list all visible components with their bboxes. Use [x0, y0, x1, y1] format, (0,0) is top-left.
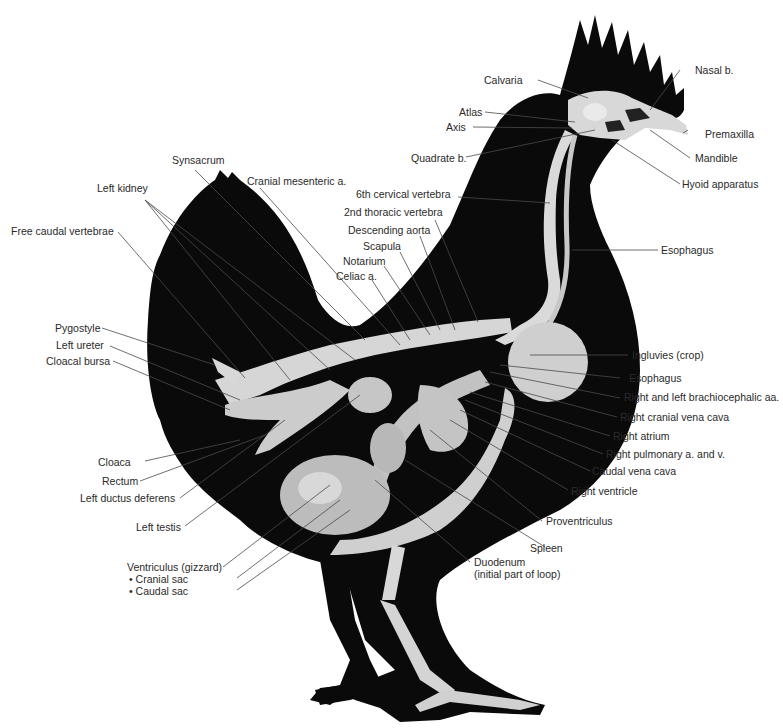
label-ingluvies-crop: Ingluvies (crop): [632, 349, 704, 361]
label-descending-aorta: Descending aorta: [348, 224, 430, 236]
testis: [348, 377, 392, 413]
label-scapula: Scapula: [363, 240, 401, 252]
label-esophagus-thorax: Esophagus: [629, 372, 682, 384]
label-synsacrum: Synsacrum: [172, 154, 225, 166]
label-6th-cervical-vertebra: 6th cervical vertebra: [356, 188, 451, 200]
label-2nd-thoracic-vertebra: 2nd thoracic vertebra: [344, 206, 443, 218]
label-esophagus-neck: Esophagus: [661, 244, 714, 256]
label-right-cranial-vena-cava: Right cranial vena cava: [620, 411, 729, 423]
label-left-testis: Left testis: [136, 521, 181, 533]
label-mandible: Mandible: [695, 152, 738, 164]
label-left-ductus-deferens: Left ductus deferens: [80, 492, 175, 504]
label-left-kidney: Left kidney: [97, 182, 148, 194]
label-left-ureter: Left ureter: [56, 339, 104, 351]
label-nasal-bone: Nasal b.: [695, 64, 734, 76]
label-cranial-mesenteric-artery: Cranial mesenteric a.: [247, 175, 346, 187]
label-caudal-vena-cava: Caudal vena cava: [592, 465, 676, 477]
rooster-illustration: [0, 0, 783, 728]
label-premaxilla: Premaxilla: [705, 128, 754, 140]
label-calvaria: Calvaria: [484, 74, 523, 86]
label-brachiocephalic-arteries: Right and left brachiocephalic aa.: [624, 391, 779, 403]
label-cranial-sac: • Cranial sac: [129, 573, 188, 585]
label-duodenum-line1: Duodenum: [474, 556, 560, 568]
label-free-caudal-vertebrae: Free caudal vertebrae: [11, 225, 114, 237]
crop: [508, 322, 588, 402]
label-axis: Axis: [446, 121, 466, 133]
label-celiac-artery: Celiac a.: [336, 270, 377, 282]
label-right-ventricle: Right ventricle: [571, 485, 638, 497]
label-hyoid-apparatus: Hyoid apparatus: [682, 178, 758, 190]
spleen: [370, 423, 406, 473]
label-right-atrium: Right atrium: [613, 430, 670, 442]
label-cloaca: Cloaca: [98, 456, 131, 468]
orbit: [583, 103, 607, 121]
label-rectum: Rectum: [102, 475, 138, 487]
label-notarium: Notarium: [343, 255, 386, 267]
label-right-pulmonary: Right pulmonary a. and v.: [606, 448, 725, 460]
label-ventriculus-gizzard: Ventriculus (gizzard): [127, 561, 222, 573]
label-spleen: Spleen: [530, 542, 563, 554]
label-pygostyle: Pygostyle: [55, 322, 101, 334]
label-cloacal-bursa: Cloacal bursa: [46, 355, 110, 367]
label-quadrate-bone: Quadrate b.: [411, 152, 466, 164]
label-proventriculus: Proventriculus: [546, 515, 613, 527]
rooster-anatomy-figure: Calvaria Nasal b. Atlas Axis Premaxilla …: [0, 0, 783, 728]
label-duodenum: Duodenum (initial part of loop): [474, 556, 560, 580]
label-atlas: Atlas: [459, 106, 482, 118]
label-caudal-sac: • Caudal sac: [129, 585, 188, 597]
label-duodenum-line2: (initial part of loop): [474, 568, 560, 580]
